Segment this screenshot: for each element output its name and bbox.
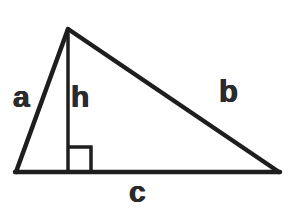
geometry-figure: a h b c: [0, 0, 295, 210]
triangle-diagram: [0, 0, 295, 210]
label-side-a: a: [13, 82, 30, 112]
label-side-b: b: [219, 76, 238, 107]
label-side-c: c: [129, 177, 146, 207]
side-b-line: [68, 29, 279, 172]
right-angle-marker: [68, 147, 91, 172]
label-altitude-h: h: [71, 82, 89, 112]
